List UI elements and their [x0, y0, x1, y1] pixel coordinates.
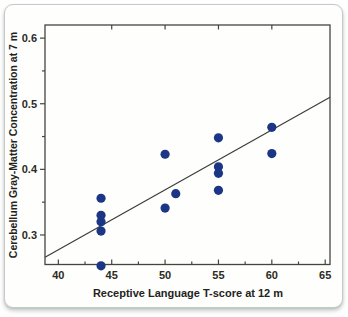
page: 4045505560650.30.40.50.6 Receptive Langu…	[0, 0, 348, 317]
data-point	[96, 217, 105, 226]
data-point	[96, 194, 105, 203]
x-tick-label: 55	[212, 269, 224, 281]
y-tick-label: 0.5	[22, 98, 37, 110]
x-axis-title: Receptive Language T-score at 12 m	[93, 287, 283, 299]
trend-line-layer	[45, 97, 330, 257]
scatter-plot: 4045505560650.30.40.50.6 Receptive Langu…	[0, 0, 348, 317]
plot-box	[45, 25, 330, 265]
data-point	[171, 189, 180, 198]
axis-ticks	[40, 25, 325, 265]
y-tick-label: 0.4	[22, 163, 38, 175]
data-point	[214, 186, 223, 195]
data-points-layer	[96, 123, 276, 271]
data-point	[267, 149, 276, 158]
data-point	[267, 123, 276, 132]
x-tick-label: 45	[106, 269, 118, 281]
x-tick-label: 60	[266, 269, 278, 281]
data-point	[96, 261, 105, 270]
y-axis-title: Cerebellum Gray-Matter Concentration at …	[7, 32, 19, 258]
plot-frame	[45, 25, 330, 265]
x-tick-label: 40	[52, 269, 64, 281]
data-point	[160, 150, 169, 159]
x-tick-label: 65	[319, 269, 331, 281]
data-point	[214, 133, 223, 142]
data-point	[214, 169, 223, 178]
y-tick-label: 0.3	[22, 229, 37, 241]
y-tick-label: 0.6	[22, 32, 37, 44]
data-point	[160, 203, 169, 212]
regression-line	[45, 97, 330, 257]
axis-tick-labels: 4045505560650.30.40.50.6	[22, 32, 332, 281]
x-tick-label: 50	[159, 269, 171, 281]
data-point	[96, 226, 105, 235]
